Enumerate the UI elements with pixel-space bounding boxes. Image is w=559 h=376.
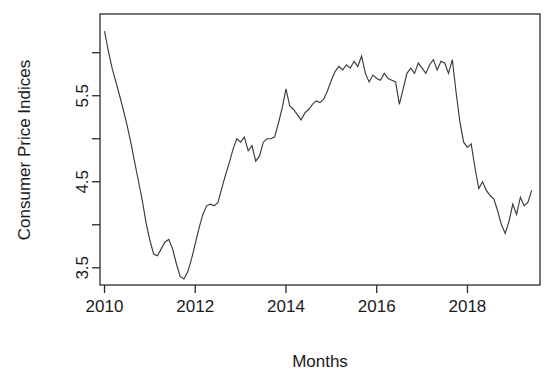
- line-chart-canvas: 3.54.55.5 20102012201420162018 Consumer …: [0, 0, 559, 376]
- plot-frame: [100, 14, 540, 285]
- chart-figure: 3.54.55.5 20102012201420162018 Consumer …: [0, 0, 559, 376]
- y-tick-label: 4.5: [73, 170, 92, 194]
- cpi-series-line: [105, 31, 532, 279]
- x-tick-label: 2012: [176, 297, 214, 316]
- y-axis-tick-marks: [92, 53, 100, 268]
- x-axis-title: Months: [292, 352, 348, 371]
- y-tick-label: 5.5: [73, 84, 92, 108]
- x-tick-label: 2016: [358, 297, 396, 316]
- x-axis-tick-marks: [105, 285, 468, 293]
- x-tick-label: 2010: [86, 297, 124, 316]
- x-tick-label: 2018: [449, 297, 487, 316]
- x-axis-tick-labels: 20102012201420162018: [86, 297, 487, 316]
- x-tick-label: 2014: [267, 297, 305, 316]
- y-tick-label: 3.5: [73, 256, 92, 280]
- y-axis-tick-labels: 3.54.55.5: [73, 84, 92, 280]
- y-axis-title: Consumer Price Indices: [15, 60, 34, 240]
